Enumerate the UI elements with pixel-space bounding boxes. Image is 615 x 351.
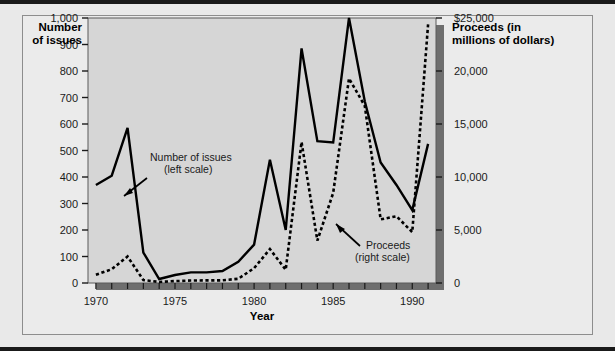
x-ticklabel: 1985 (321, 295, 345, 307)
left-axis-title-line2: of issues (32, 34, 82, 46)
x-ticklabel: 1990 (400, 295, 424, 307)
right-axis-ticklabels: 05,00010,00015,00020,000$25,000 (454, 12, 494, 289)
right-ticklabel: 5,000 (454, 224, 482, 236)
right-axis-title-line2: millions of dollars) (452, 34, 554, 46)
x-ticklabel: 1975 (163, 295, 187, 307)
right-axis-title-line1: Proceeds (in (452, 21, 521, 33)
left-axis-ticks (82, 18, 88, 283)
right-ticklabel: 15,000 (454, 118, 488, 130)
left-ticklabel: 200 (60, 224, 78, 236)
left-ticklabel: 700 (60, 92, 78, 104)
left-ticklabel: 600 (60, 118, 78, 130)
right-ticklabel: 0 (454, 277, 460, 289)
annotation-proceeds-line1: Proceeds (366, 239, 410, 251)
left-ticklabel: 800 (60, 65, 78, 77)
x-ticklabel: 1970 (84, 295, 108, 307)
left-ticklabel: 0 (72, 277, 78, 289)
left-ticklabel: 100 (60, 251, 78, 263)
x-axis-ticklabels: 19701975198019851990 (84, 295, 425, 307)
annotation-issues-line1: Number of issues (150, 151, 232, 163)
annotation-proceeds-line2: (right scale) (355, 251, 410, 263)
right-ticklabel: 10,000 (454, 171, 488, 183)
chart-svg: 01002003004005006007008009001,000 05,000… (0, 0, 615, 351)
left-ticklabel: 300 (60, 198, 78, 210)
left-axis-title-line1: Number (39, 21, 83, 33)
annotation-issues-line2: (left scale) (164, 163, 212, 175)
x-axis-title: Year (250, 310, 275, 322)
x-ticklabel: 1980 (242, 295, 266, 307)
left-ticklabel: 500 (60, 145, 78, 157)
left-axis-ticklabels: 01002003004005006007008009001,000 (50, 12, 78, 289)
figure-container: 01002003004005006007008009001,000 05,000… (0, 0, 615, 351)
right-ticklabel: 20,000 (454, 65, 488, 77)
left-ticklabel: 400 (60, 171, 78, 183)
